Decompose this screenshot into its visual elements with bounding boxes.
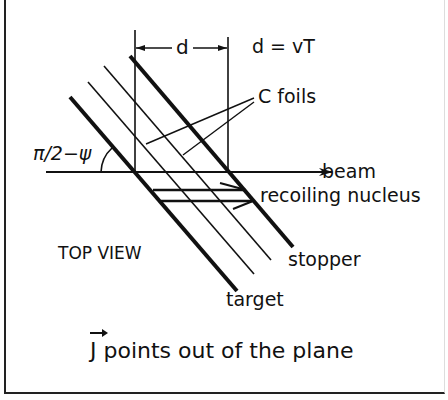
caption: J points out of the plane	[90, 340, 353, 362]
label-stopper: stopper	[288, 250, 361, 269]
label-beam: beam	[322, 162, 376, 181]
label-d-equals-vt: d = vT	[252, 37, 315, 56]
caption-text: points out of the plane	[97, 338, 354, 363]
label-d: d	[176, 37, 189, 57]
label-angle: π/2−ψ	[33, 144, 91, 163]
label-top-view: TOP VIEW	[58, 245, 142, 262]
label-recoiling-nucleus: recoiling nucleus	[260, 186, 421, 205]
angle-arc	[101, 148, 112, 172]
label-target: target	[226, 290, 284, 309]
j-vector-symbol: J	[90, 340, 97, 362]
label-c-foils: C foils	[258, 87, 316, 106]
